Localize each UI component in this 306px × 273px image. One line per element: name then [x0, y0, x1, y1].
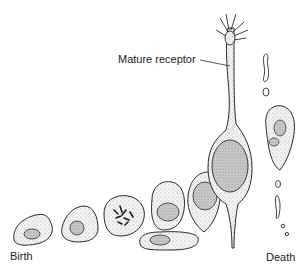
birth-label: Birth: [10, 251, 33, 262]
dividing-cell: [104, 196, 144, 236]
immature-cell-1: [152, 182, 185, 230]
flat-cell: [140, 232, 199, 250]
mature-receptor-label: Mature receptor: [118, 54, 196, 65]
cell-lifecycle-diagram: [0, 0, 306, 273]
death-label: Death: [266, 252, 295, 263]
mature-receptor-pointer: [200, 60, 230, 66]
basal-cell-2: [62, 206, 98, 242]
basal-cell-1: [14, 214, 53, 245]
dying-cell: [266, 106, 295, 170]
